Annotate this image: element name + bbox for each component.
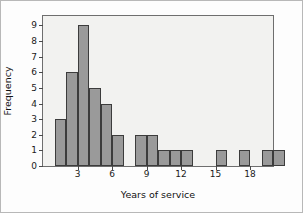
y-tick-mark [39, 166, 43, 167]
y-tick-mark [39, 25, 43, 26]
y-tick-group: 4 [43, 104, 44, 105]
histogram-bar [181, 150, 193, 166]
x-tick-group: 3 [78, 165, 79, 166]
histogram-bar [170, 150, 182, 166]
y-tick-mark [39, 72, 43, 73]
histogram-bar [55, 119, 67, 166]
y-tick-label: 3 [31, 115, 37, 124]
x-tick-label: 12 [175, 170, 186, 179]
histogram-bar [101, 104, 113, 167]
y-tick-mark [39, 119, 43, 120]
y-tick-mark [39, 41, 43, 42]
x-tick-label: 6 [109, 170, 115, 179]
y-axis-title: Frequency [2, 66, 13, 115]
y-tick-mark [39, 88, 43, 89]
x-axis-title: Years of service [42, 189, 274, 200]
x-tick-label: 15 [210, 170, 221, 179]
histogram-bar [216, 150, 228, 166]
histogram-bar [112, 135, 124, 166]
y-tick-label: 9 [31, 21, 37, 30]
plot-frame: 0123456789 369121518 [42, 15, 274, 167]
x-tick-group: 9 [147, 165, 148, 166]
plot-area [43, 16, 273, 166]
y-tick-label: 4 [31, 99, 37, 108]
y-tick-mark [39, 104, 43, 105]
y-tick-group: 8 [43, 41, 44, 42]
x-tick-label: 9 [144, 170, 150, 179]
x-tick-group: 15 [216, 165, 217, 166]
y-tick-mark [39, 57, 43, 58]
histogram-bar [273, 150, 285, 166]
y-tick-label: 2 [31, 130, 37, 139]
y-tick-group: 2 [43, 135, 44, 136]
y-tick-group: 0 [43, 166, 44, 167]
histogram-bar [135, 135, 147, 166]
y-tick-group: 3 [43, 119, 44, 120]
x-tick-label: 3 [75, 170, 81, 179]
y-tick-group: 6 [43, 72, 44, 73]
chart-outer-frame: 0123456789 369121518 Frequency Years of … [0, 0, 303, 213]
y-tick-group: 5 [43, 88, 44, 89]
y-tick-label: 1 [31, 146, 37, 155]
histogram-bar [78, 25, 90, 166]
y-tick-mark [39, 150, 43, 151]
histogram-bar [158, 150, 170, 166]
y-tick-label: 8 [31, 37, 37, 46]
y-tick-label: 7 [31, 52, 37, 61]
y-tick-label: 6 [31, 68, 37, 77]
x-tick-group: 6 [112, 165, 113, 166]
y-tick-label: 0 [31, 162, 37, 171]
histogram-bar [147, 135, 159, 166]
histogram-bar [239, 150, 251, 166]
x-tick-group: 12 [181, 165, 182, 166]
y-tick-label: 5 [31, 83, 37, 92]
x-tick-label: 18 [244, 170, 255, 179]
y-tick-group: 1 [43, 150, 44, 151]
histogram-bar [66, 72, 78, 166]
x-tick-group: 18 [250, 165, 251, 166]
histogram-bar [89, 88, 101, 166]
y-tick-mark [39, 135, 43, 136]
y-tick-group: 7 [43, 57, 44, 58]
y-tick-group: 9 [43, 25, 44, 26]
histogram-bar [262, 150, 274, 166]
